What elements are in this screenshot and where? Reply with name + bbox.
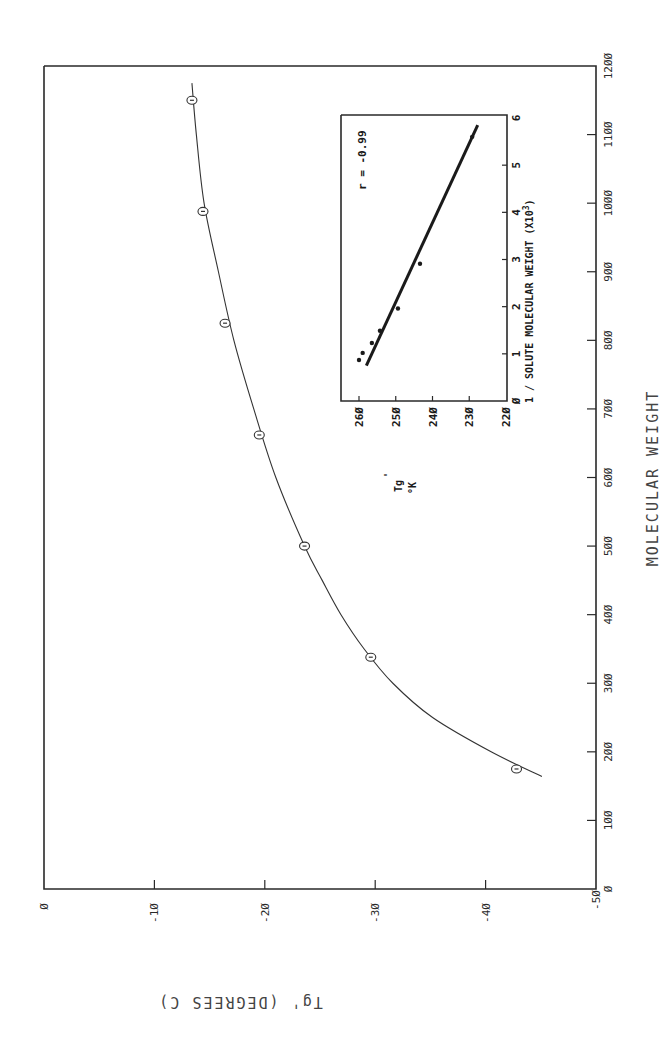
tick-label: 22Ø bbox=[500, 407, 513, 427]
inset-data-point bbox=[470, 135, 474, 139]
tick-label: 24Ø bbox=[427, 407, 440, 427]
inset-data-point bbox=[396, 306, 400, 310]
inset-data-point bbox=[357, 358, 361, 362]
tick-label: 5 bbox=[510, 162, 523, 169]
tick-label: 5ØØ bbox=[602, 536, 615, 556]
inset-x-axis-title: 1 / SOLUTE MOLECULAR WEIGHT (X103) bbox=[522, 199, 535, 403]
tick-label: 3 bbox=[510, 256, 523, 263]
tick-label: 12ØØ bbox=[602, 52, 615, 79]
inset-inverse-mw-axis-ticks: Ø123456 bbox=[502, 114, 523, 405]
tick-label: Ø bbox=[38, 903, 51, 910]
tick-label: -2Ø bbox=[259, 903, 272, 923]
tick-label: Ø bbox=[602, 885, 615, 892]
tick-label: 1ØØØ bbox=[602, 190, 615, 217]
main-plot: Ø-1Ø-2Ø-3Ø-4Ø-5Ø Ø1ØØ2ØØ3ØØ4ØØ5ØØ6ØØ7ØØ8… bbox=[38, 52, 615, 922]
svg-text:°K: °K bbox=[407, 482, 418, 494]
inset-data-point bbox=[370, 341, 374, 345]
tick-label: 4ØØ bbox=[602, 604, 615, 624]
tick-label: 6 bbox=[510, 114, 523, 121]
tick-label: 2ØØ bbox=[602, 742, 615, 762]
x-axis-title: MOLECULAR WEIGHT bbox=[644, 390, 662, 567]
tick-label: 1ØØ bbox=[602, 810, 615, 830]
molecular-weight-axis-ticks: Ø1ØØ2ØØ3ØØ4ØØ5ØØ6ØØ7ØØ8ØØ9ØØ1ØØØ11ØØ12ØØ bbox=[587, 52, 615, 892]
inset-data-point bbox=[418, 262, 422, 266]
tick-label: -1Ø bbox=[148, 903, 161, 923]
tick-label: -3Ø bbox=[369, 903, 382, 923]
tg-axis-ticks: Ø-1Ø-2Ø-3Ø-4Ø-5Ø bbox=[38, 880, 603, 923]
tick-label: 7ØØ bbox=[602, 399, 615, 419]
tick-label: 2 bbox=[510, 303, 523, 310]
tick-label: 3ØØ bbox=[602, 673, 615, 693]
svg-text:': ' bbox=[383, 472, 394, 478]
tick-label: 26Ø bbox=[353, 407, 366, 427]
tick-label: 11ØØ bbox=[602, 121, 615, 148]
inset-fit-line bbox=[366, 125, 477, 366]
correlation-annotation: r = -0.99 bbox=[356, 130, 369, 190]
inset-plot: 26Ø25Ø24Ø23Ø22Ø Ø123456 r = -0.99 1 / SO… bbox=[341, 114, 535, 494]
tick-label: 23Ø bbox=[463, 407, 476, 427]
tick-label: 8ØØ bbox=[602, 330, 615, 350]
svg-text:Tg: Tg bbox=[393, 480, 404, 492]
data-markers bbox=[187, 96, 522, 773]
tick-label: 9ØØ bbox=[602, 261, 615, 281]
tick-label: 6ØØ bbox=[602, 467, 615, 487]
inset-data-point bbox=[378, 329, 382, 333]
chart: Ø-1Ø-2Ø-3Ø-4Ø-5Ø Ø1ØØ2ØØ3ØØ4ØØ5ØØ6ØØ7ØØ8… bbox=[0, 0, 666, 1039]
tick-label: 25Ø bbox=[390, 407, 403, 427]
y-axis-title: Tg' (DEGREES C) bbox=[157, 993, 322, 1011]
inset-data-point bbox=[360, 351, 364, 355]
tick-label: 1 bbox=[510, 350, 523, 357]
tick-label: -4Ø bbox=[480, 903, 493, 923]
inset-y-axis-title: Tg ' °K bbox=[383, 472, 418, 494]
tick-label: Ø bbox=[510, 397, 523, 405]
